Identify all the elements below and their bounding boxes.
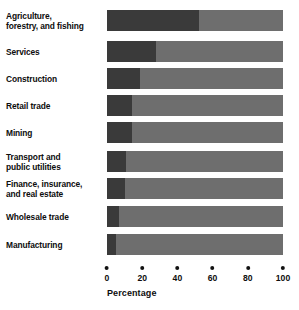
category-label-line: Transport and — [6, 152, 102, 162]
bar-segment-primary — [107, 68, 140, 89]
percentage-bar-chart: Agriculture,forestry, and fishingService… — [0, 0, 299, 310]
tick-dot-icon — [175, 266, 179, 270]
bar-track — [107, 206, 283, 227]
category-label-line: Agriculture, — [6, 11, 102, 21]
bar-segment-primary — [107, 95, 132, 116]
category-label-line: Mining — [6, 128, 102, 138]
category-label: Finance, insurance,and real estate — [6, 179, 102, 200]
category-label-line: Retail trade — [6, 101, 102, 111]
x-axis-tick-label: 80 — [243, 273, 253, 283]
x-axis-tick-label: 40 — [173, 273, 183, 283]
x-axis-tick: 100 — [276, 266, 290, 283]
tick-dot-icon — [281, 266, 285, 270]
bar-track — [107, 151, 283, 172]
category-label-line: and real estate — [6, 189, 102, 199]
tick-dot-icon — [105, 266, 109, 270]
x-axis-tick-label: 100 — [276, 273, 290, 283]
bar-segment-primary — [107, 234, 116, 255]
bar-segment-remainder — [140, 68, 283, 89]
category-label-line: public utilities — [6, 162, 102, 172]
bar-segment-primary — [107, 206, 119, 227]
category-label: Transport andpublic utilities — [6, 152, 102, 173]
bar-segment-remainder — [125, 178, 283, 199]
bar-track — [107, 122, 283, 143]
bar-row: Mining — [0, 122, 299, 143]
x-axis-tick-label: 0 — [105, 273, 110, 283]
tick-dot-icon — [140, 266, 144, 270]
bar-track — [107, 10, 283, 31]
category-label: Wholesale trade — [6, 212, 102, 222]
bar-row: Retail trade — [0, 95, 299, 116]
bar-segment-primary — [107, 10, 199, 31]
bar-segment-remainder — [156, 41, 283, 62]
x-axis-tick: 60 — [208, 266, 218, 283]
bar-row: Wholesale trade — [0, 206, 299, 227]
bar-row: Services — [0, 41, 299, 62]
category-label-line: forestry, and fishing — [6, 21, 102, 31]
bar-segment-remainder — [116, 234, 283, 255]
x-axis-tick: 80 — [243, 266, 253, 283]
x-axis-tick-label: 60 — [208, 273, 218, 283]
x-axis-title: Percentage — [107, 288, 157, 298]
x-axis-tick: 40 — [173, 266, 183, 283]
category-label: Construction — [6, 74, 102, 84]
x-axis-tick: 0 — [105, 266, 110, 283]
category-label: Retail trade — [6, 101, 102, 111]
category-label-line: Wholesale trade — [6, 212, 102, 222]
bar-row: Finance, insurance,and real estate — [0, 178, 299, 199]
bar-row: Manufacturing — [0, 234, 299, 255]
x-axis-tick-label: 20 — [137, 273, 147, 283]
bar-row: Transport andpublic utilities — [0, 151, 299, 172]
category-label: Mining — [6, 128, 102, 138]
category-label-line: Finance, insurance, — [6, 179, 102, 189]
bar-segment-primary — [107, 151, 126, 172]
bar-segment-remainder — [199, 10, 283, 31]
bar-track — [107, 68, 283, 89]
x-axis: Percentage 020406080100 — [0, 266, 299, 310]
tick-dot-icon — [246, 266, 250, 270]
bar-segment-primary — [107, 41, 156, 62]
bar-segment-primary — [107, 122, 132, 143]
bar-track — [107, 178, 283, 199]
x-axis-tick: 20 — [137, 266, 147, 283]
category-label-line: Construction — [6, 74, 102, 84]
bar-segment-primary — [107, 178, 125, 199]
bar-segment-remainder — [126, 151, 283, 172]
bar-segment-remainder — [119, 206, 283, 227]
category-label: Services — [6, 47, 102, 57]
bar-track — [107, 234, 283, 255]
bar-row: Agriculture,forestry, and fishing — [0, 10, 299, 31]
tick-dot-icon — [211, 266, 215, 270]
bar-row: Construction — [0, 68, 299, 89]
category-label: Agriculture,forestry, and fishing — [6, 11, 102, 32]
plot-area: Agriculture,forestry, and fishingService… — [0, 0, 299, 268]
category-label-line: Services — [6, 47, 102, 57]
category-label: Manufacturing — [6, 240, 102, 250]
bar-track — [107, 41, 283, 62]
bar-track — [107, 95, 283, 116]
bar-segment-remainder — [132, 95, 283, 116]
bar-segment-remainder — [132, 122, 283, 143]
category-label-line: Manufacturing — [6, 240, 102, 250]
